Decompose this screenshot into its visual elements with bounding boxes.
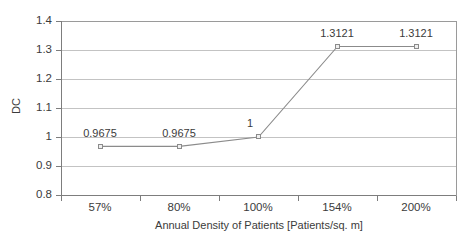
x-axis-title: Annual Density of Patients [Patients/sq.… [61,219,457,232]
data-point-marker-3 [335,44,340,49]
y-axis-title: DC [10,86,22,126]
data-point-marker-0 [98,144,103,149]
data-point-label-0: 0.9675 [65,127,135,139]
data-point-label-1: 0.9675 [144,127,214,139]
data-point-label-4: 1.3121 [381,27,451,39]
data-point-label-3: 1.3121 [302,27,372,39]
data-point-marker-1 [177,144,182,149]
data-point-marker-2 [256,134,261,139]
data-point-label-2: 1 [215,117,285,129]
line-chart: 1.4 1.3 1.2 1.1 1 0.9 0.8 57% 80% 100% 1… [0,0,475,242]
data-point-marker-4 [414,44,419,49]
